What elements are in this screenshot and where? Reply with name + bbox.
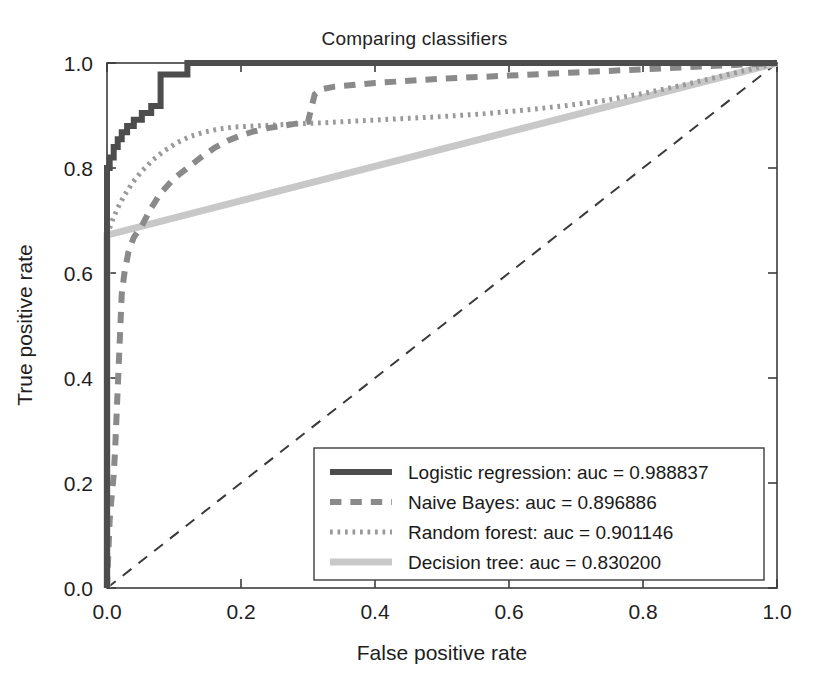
roc-figure: Comparing classifiers 0.00.20.40.60.81.0… bbox=[0, 0, 829, 688]
x-axis-tick-labels: 0.00.20.40.60.81.0 bbox=[92, 600, 791, 623]
legend-item-label: Logistic regression: auc = 0.988837 bbox=[408, 462, 709, 483]
legend-item-label: Random forest: auc = 0.901146 bbox=[408, 522, 673, 543]
y-axis-title: True positive rate bbox=[13, 244, 36, 405]
x-axis-title: False positive rate bbox=[357, 641, 527, 664]
y-tick-label: 0.6 bbox=[64, 262, 93, 285]
legend: Logistic regression: auc = 0.988837Naive… bbox=[314, 448, 764, 580]
x-tick-label: 0.2 bbox=[226, 600, 255, 623]
y-tick-label: 0.4 bbox=[64, 367, 94, 390]
x-tick-label: 0.6 bbox=[494, 600, 523, 623]
y-axis-tick-labels: 0.00.20.40.60.81.0 bbox=[64, 52, 94, 600]
legend-item-label: Decision tree: auc = 0.830200 bbox=[408, 552, 661, 573]
legend-item-label: Naive Bayes: auc = 0.896886 bbox=[408, 492, 657, 513]
y-tick-label: 0.8 bbox=[64, 157, 93, 180]
x-tick-label: 0.4 bbox=[360, 600, 390, 623]
y-tick-label: 0.0 bbox=[64, 577, 93, 600]
x-tick-label: 1.0 bbox=[762, 600, 791, 623]
x-tick-label: 0.0 bbox=[92, 600, 121, 623]
roc-plot: 0.00.20.40.60.81.0 0.00.20.40.60.81.0 Fa… bbox=[0, 0, 829, 688]
y-tick-label: 0.2 bbox=[64, 472, 93, 495]
y-tick-label: 1.0 bbox=[64, 52, 93, 75]
x-tick-label: 0.8 bbox=[628, 600, 657, 623]
